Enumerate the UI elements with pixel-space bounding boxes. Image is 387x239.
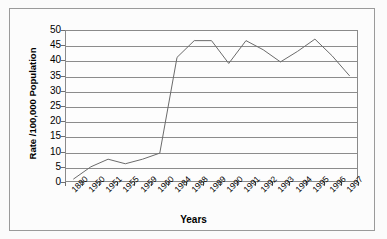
x-axis-title: Years [0, 214, 387, 225]
chart-figure: Rate /100,000 Population 051015202530354… [0, 0, 387, 239]
x-tick-mark [65, 182, 66, 186]
data-series-line [0, 0, 387, 239]
